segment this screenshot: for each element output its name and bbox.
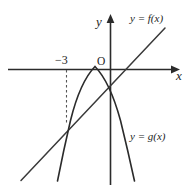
y-axis-label: y (94, 14, 102, 29)
curve-g-parabola (58, 67, 135, 182)
x-axis-label: x (175, 68, 182, 83)
math-figure: x y O −3 y = f(x) y = g(x) (0, 0, 190, 190)
curve-f-label: y = f(x) (129, 12, 163, 25)
graph-canvas: x y O −3 y = f(x) y = g(x) (0, 0, 190, 190)
curve-f-line (21, 28, 165, 181)
origin-label: O (97, 55, 105, 67)
y-axis-arrow-icon (107, 14, 115, 23)
x-tick-label-minus-three: −3 (55, 53, 68, 67)
curve-g-label: y = g(x) (129, 130, 166, 143)
